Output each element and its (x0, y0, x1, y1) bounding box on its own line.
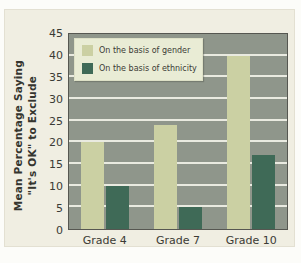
legend-item-ethnicity: On the basis of ethnicity (82, 63, 195, 74)
legend-label-gender: On the basis of gender (99, 46, 190, 55)
y-tick-40: 40 (49, 49, 63, 60)
legend: On the basis of gender On the basis of e… (74, 38, 203, 81)
bar-gender-grade-10 (227, 56, 250, 229)
y-axis-title-line1: Mean Percentage Saying (12, 36, 26, 236)
y-tick-35: 35 (49, 71, 63, 82)
bar-ethnicity-grade-7 (179, 207, 202, 229)
bar-gender-grade-7 (154, 125, 177, 229)
x-axis-labels: Grade 4Grade 7Grade 10 (68, 234, 288, 247)
x-label-grade-10: Grade 10 (215, 234, 288, 247)
legend-swatch-ethnicity (82, 63, 93, 74)
y-tick-0: 0 (56, 225, 63, 236)
y-tick-15: 15 (49, 159, 63, 170)
y-tick-30: 30 (49, 93, 63, 104)
legend-item-gender: On the basis of gender (82, 45, 195, 56)
y-tick-10: 10 (49, 181, 63, 192)
bar-gender-grade-4 (81, 142, 104, 229)
y-tick-20: 20 (49, 137, 63, 148)
x-label-grade-4: Grade 4 (68, 234, 141, 247)
bar-group-grade-10 (227, 34, 275, 229)
legend-label-ethnicity: On the basis of ethnicity (99, 64, 197, 73)
legend-swatch-gender (82, 45, 93, 56)
x-label-grade-7: Grade 7 (141, 234, 214, 247)
y-axis-ticks: 051015202530354045 (29, 33, 63, 230)
y-tick-45: 45 (49, 28, 63, 39)
y-tick-25: 25 (49, 115, 63, 126)
y-tick-5: 5 (56, 203, 63, 214)
bar-ethnicity-grade-4 (106, 186, 129, 229)
plot-area: On the basis of gender On the basis of e… (68, 33, 288, 230)
bar-ethnicity-grade-10 (252, 155, 275, 229)
chart-figure: Mean Percentage Saying "It's OK" to Excl… (4, 9, 295, 247)
